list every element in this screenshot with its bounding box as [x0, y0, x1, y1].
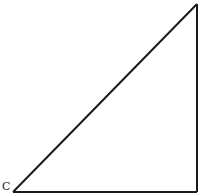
hypotenuse — [13, 4, 197, 192]
triangle-diagram: C — [0, 0, 205, 195]
vertex-label-c: C — [2, 180, 10, 193]
